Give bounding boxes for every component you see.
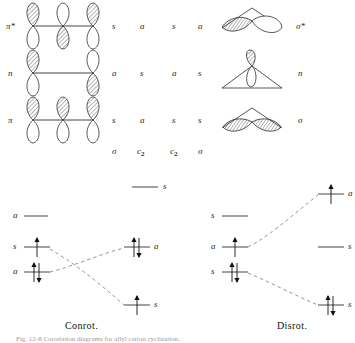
sym-left-n-sigma: a bbox=[112, 69, 117, 78]
sym-right-sigma-c2: s bbox=[172, 116, 176, 125]
orbital-pi-star-allyl bbox=[27, 3, 99, 49]
sym-left-pi-sigma: s bbox=[112, 116, 116, 125]
sym-left-pistar-sigma: s bbox=[112, 22, 116, 31]
disrot-panel-label: Disrot. bbox=[277, 320, 307, 331]
disrot-correlation bbox=[222, 184, 344, 316]
orbital-sigma-cyclopropyl bbox=[222, 108, 282, 131]
orbital-label-sigma-star: σ* bbox=[296, 22, 305, 31]
orbital-n-allyl bbox=[27, 50, 99, 96]
axis-header-right-c2: c2 bbox=[170, 147, 178, 158]
orbital-label-sigma: σ bbox=[298, 116, 302, 125]
conrot-left-s-label: s bbox=[13, 242, 17, 251]
conrot-top-s-label: s bbox=[163, 182, 167, 191]
disrot-left-s-label: s bbox=[211, 267, 215, 276]
sym-right-n-sigma: s bbox=[198, 69, 202, 78]
electron-arrow bbox=[134, 295, 139, 315]
conrot-left-a-label: a bbox=[13, 267, 18, 276]
electron-pair bbox=[229, 262, 239, 283]
axis-header-left-sigma: σ bbox=[112, 147, 116, 156]
orbital-label-n-allyl: n bbox=[8, 69, 13, 78]
electron-arrow bbox=[328, 184, 333, 204]
electron-arrow bbox=[232, 237, 237, 257]
sym-right-n-c2: a bbox=[172, 69, 177, 78]
electron-pair bbox=[131, 237, 141, 258]
disrot-right-a-label: a bbox=[348, 189, 353, 198]
orbital-label-n-cyclopropyl: n bbox=[298, 69, 303, 78]
sym-left-pistar-c2: a bbox=[140, 22, 145, 31]
axis-header-right-sigma: σ bbox=[198, 147, 202, 156]
sym-right-sigmastar-sigma: a bbox=[198, 22, 203, 31]
orbital-n-cyclopropyl bbox=[222, 50, 282, 88]
sym-right-sigma-sigma: s bbox=[198, 116, 202, 125]
orbital-pi-allyl bbox=[27, 97, 99, 143]
conrot-left-a-empty-label: a bbox=[13, 211, 18, 220]
conrot-right-a-label: a bbox=[154, 242, 159, 251]
orbital-label-pi-star: π* bbox=[6, 22, 15, 31]
sym-left-n-c2: s bbox=[140, 69, 144, 78]
electron-arrow bbox=[34, 237, 39, 257]
sym-left-pi-c2: a bbox=[140, 116, 145, 125]
disrot-left-a-label: a bbox=[211, 242, 216, 251]
electron-pair bbox=[325, 295, 335, 316]
disrot-left-s-empty-label: s bbox=[211, 211, 215, 220]
axis-header-left-c2: c2 bbox=[137, 147, 145, 158]
electron-pair bbox=[31, 262, 41, 283]
conrot-right-s-label: s bbox=[154, 300, 158, 309]
sym-right-sigmastar-c2: s bbox=[172, 22, 176, 31]
figure-caption: Fig. 12-8 Correlation diagrams for allyl… bbox=[16, 335, 346, 343]
conrot-panel-label: Conrot. bbox=[65, 320, 98, 331]
orbital-label-pi: π bbox=[8, 116, 13, 125]
orbital-sigma-star-cyclopropyl bbox=[222, 8, 282, 33]
disrot-right-s-label: s bbox=[348, 300, 352, 309]
conrot-correlation bbox=[24, 216, 150, 315]
disrot-right-s-empty-label: s bbox=[348, 242, 352, 251]
